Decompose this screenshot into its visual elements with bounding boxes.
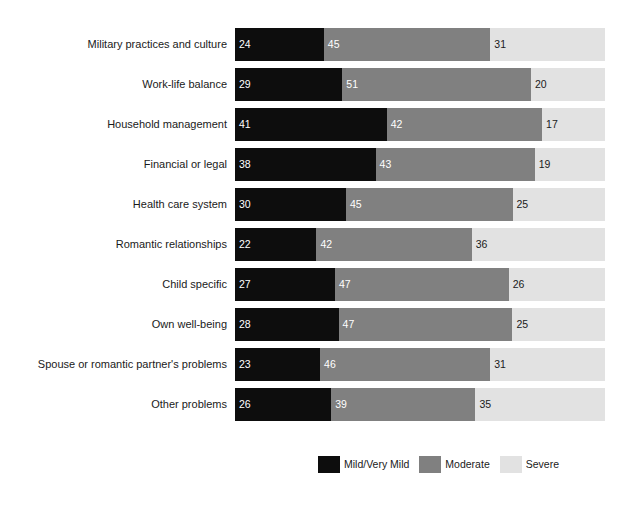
- bar-segment: 30: [235, 188, 346, 221]
- bar-segment: 42: [316, 228, 471, 261]
- bar-segment: 51: [342, 68, 531, 101]
- stacked-bar: 414217: [235, 108, 605, 141]
- legend-swatch-icon: [500, 456, 522, 473]
- segment-value-label: 35: [479, 388, 491, 421]
- category-label: Romantic relationships: [116, 228, 227, 261]
- bar-segment: 38: [235, 148, 376, 181]
- chart-row: Other problems263935: [0, 388, 637, 421]
- segment-value-label: 46: [324, 348, 336, 381]
- bar-segment: 41: [235, 108, 387, 141]
- legend-label: Severe: [526, 458, 559, 470]
- bar-segment: 31: [490, 348, 605, 381]
- bar-segment: 25: [513, 188, 606, 221]
- bar-segment: 25: [512, 308, 605, 341]
- bar-segment: 24: [235, 28, 324, 61]
- stacked-bar: 295120: [235, 68, 605, 101]
- segment-value-label: 31: [494, 28, 506, 61]
- bar-segment: 35: [475, 388, 605, 421]
- chart-row: Financial or legal384319: [0, 148, 637, 181]
- bar-segment: 29: [235, 68, 342, 101]
- segment-value-label: 20: [535, 68, 547, 101]
- chart-row: Spouse or romantic partner's problems234…: [0, 348, 637, 381]
- bar-segment: 46: [320, 348, 490, 381]
- segment-value-label: 36: [476, 228, 488, 261]
- segment-value-label: 47: [339, 268, 351, 301]
- segment-value-label: 42: [391, 108, 403, 141]
- bar-segment: 47: [339, 308, 513, 341]
- segment-value-label: 25: [516, 308, 528, 341]
- stacked-bar: 224236: [235, 228, 605, 261]
- stacked-bar: 304525: [235, 188, 605, 221]
- bar-segment: 19: [535, 148, 605, 181]
- stacked-bar: 384319: [235, 148, 605, 181]
- stacked-bar: 284725: [235, 308, 605, 341]
- bar-segment: 47: [335, 268, 509, 301]
- segment-value-label: 30: [239, 188, 251, 221]
- segment-value-label: 19: [539, 148, 551, 181]
- segment-value-label: 47: [343, 308, 355, 341]
- segment-value-label: 38: [239, 148, 251, 181]
- segment-value-label: 28: [239, 308, 251, 341]
- bar-segment: 31: [490, 28, 605, 61]
- chart-row: Own well-being284725: [0, 308, 637, 341]
- segment-value-label: 45: [328, 28, 340, 61]
- segment-value-label: 43: [380, 148, 392, 181]
- stacked-bar: 274726: [235, 268, 605, 301]
- bar-segment: 43: [376, 148, 535, 181]
- legend-item[interactable]: Mild/Very Mild: [318, 456, 409, 473]
- category-label: Own well-being: [152, 308, 227, 341]
- segment-value-label: 42: [320, 228, 332, 261]
- category-label: Health care system: [133, 188, 227, 221]
- bar-segment: 27: [235, 268, 335, 301]
- category-label: Financial or legal: [144, 148, 227, 181]
- category-label: Military practices and culture: [88, 28, 227, 61]
- segment-value-label: 26: [513, 268, 525, 301]
- bar-segment: 20: [531, 68, 605, 101]
- stacked-bar: 263935: [235, 388, 605, 421]
- chart-row: Health care system304525: [0, 188, 637, 221]
- bar-segment: 45: [346, 188, 513, 221]
- bar-segment: 26: [235, 388, 331, 421]
- category-label: Work-life balance: [142, 68, 227, 101]
- segment-value-label: 31: [494, 348, 506, 381]
- segment-value-label: 23: [239, 348, 251, 381]
- legend-item[interactable]: Severe: [500, 456, 559, 473]
- legend-item[interactable]: Moderate: [419, 456, 489, 473]
- bar-segment: 26: [509, 268, 605, 301]
- legend-swatch-icon: [419, 456, 441, 473]
- bar-segment: 28: [235, 308, 339, 341]
- category-label: Household management: [107, 108, 227, 141]
- bar-segment: 23: [235, 348, 320, 381]
- category-label: Spouse or romantic partner's problems: [38, 348, 227, 381]
- chart-row: Work-life balance295120: [0, 68, 637, 101]
- segment-value-label: 29: [239, 68, 251, 101]
- segment-value-label: 25: [517, 188, 529, 221]
- stacked-bar: 234631: [235, 348, 605, 381]
- segment-value-label: 45: [350, 188, 362, 221]
- bar-segment: 17: [542, 108, 605, 141]
- bar-segment: 42: [387, 108, 542, 141]
- legend-label: Moderate: [445, 458, 489, 470]
- segment-value-label: 22: [239, 228, 251, 261]
- legend-swatch-icon: [318, 456, 340, 473]
- chart-row: Romantic relationships224236: [0, 228, 637, 261]
- segment-value-label: 41: [239, 108, 251, 141]
- category-label: Other problems: [151, 388, 227, 421]
- segment-value-label: 24: [239, 28, 251, 61]
- segment-value-label: 26: [239, 388, 251, 421]
- chart-row: Child specific274726: [0, 268, 637, 301]
- chart-row: Military practices and culture244531: [0, 28, 637, 61]
- legend-label: Mild/Very Mild: [344, 458, 409, 470]
- segment-value-label: 27: [239, 268, 251, 301]
- chart-legend: Mild/Very MildModerateSevere: [318, 455, 559, 473]
- chart-row: Household management414217: [0, 108, 637, 141]
- stacked-bar: 244531: [235, 28, 605, 61]
- bar-segment: 22: [235, 228, 316, 261]
- bar-segment: 36: [472, 228, 605, 261]
- stacked-bar-chart: Military practices and culture244531Work…: [0, 0, 637, 509]
- bar-segment: 39: [331, 388, 475, 421]
- bar-segment: 45: [324, 28, 491, 61]
- category-label: Child specific: [162, 268, 227, 301]
- segment-value-label: 39: [335, 388, 347, 421]
- segment-value-label: 17: [546, 108, 558, 141]
